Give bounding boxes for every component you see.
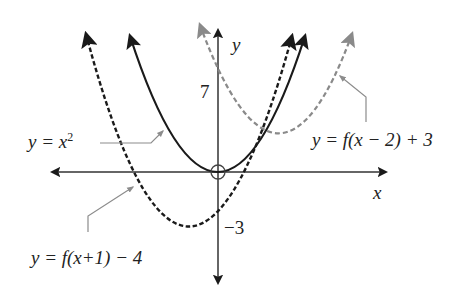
y-axis-label: y: [232, 35, 240, 54]
x-axis-label: x: [373, 183, 381, 202]
tick-label-7: 7: [200, 82, 210, 101]
leader-base: [100, 131, 163, 143]
label-base-function: y = x2: [28, 131, 73, 151]
label-base-text: y = x: [28, 131, 67, 152]
label-shift-left: y = f(x+1) − 4: [31, 248, 142, 267]
leader-shift-right: [340, 76, 366, 122]
label-base-exponent: 2: [67, 130, 73, 144]
curve-shift-right: [200, 25, 352, 133]
tick-label-neg3: −3: [224, 218, 244, 237]
leader-shift-left: [88, 187, 133, 232]
label-shift-right: y = f(x − 2) + 3: [312, 130, 433, 149]
